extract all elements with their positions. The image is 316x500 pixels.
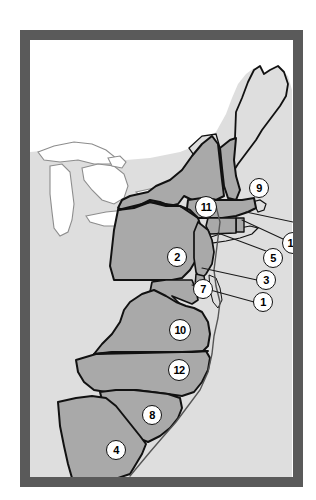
map-key-badge-7[interactable]: 7: [193, 279, 213, 299]
lake-michigan: [50, 164, 74, 236]
map-key-badge-1[interactable]: 1: [253, 292, 273, 312]
map-key-badge-8[interactable]: 8: [142, 405, 162, 425]
map-key-badge-3[interactable]: 3: [256, 270, 276, 290]
map-key-badge-11[interactable]: 11: [195, 196, 217, 218]
colony-north-carolina: [76, 351, 210, 396]
map-key-badge-2[interactable]: 2: [167, 247, 187, 267]
colony-connecticut: [206, 218, 236, 234]
map-key-badge-12[interactable]: 12: [168, 359, 190, 381]
map-canvas: 12345678910111213: [30, 40, 293, 477]
map-key-badge-9[interactable]: 9: [249, 178, 269, 198]
map-key-badge-4[interactable]: 4: [106, 440, 126, 460]
map-key-badge-10[interactable]: 10: [169, 319, 191, 341]
colonies-map-figure: 12345678910111213: [0, 0, 316, 500]
map-key-badge-5[interactable]: 5: [263, 248, 283, 268]
